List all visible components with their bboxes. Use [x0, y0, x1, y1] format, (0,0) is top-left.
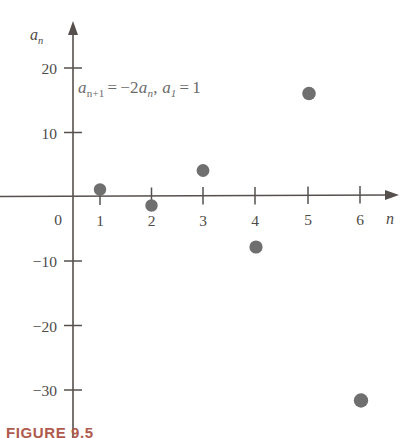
formula-initial-sub: 1	[171, 87, 177, 99]
data-point-n6	[354, 393, 368, 407]
formula-minus: −	[120, 78, 130, 97]
formula-initial-var: a	[162, 78, 171, 97]
data-point-n1	[94, 183, 106, 195]
y-axis-label-sub: n	[38, 35, 43, 46]
scatter-plot: 20 10 0 −10 −20 −30 1 2 3 4 5 6	[0, 0, 414, 438]
y-axis-tick-labels: 20 10 0 −10 −20 −30	[33, 60, 63, 399]
y-tick-label-neg20: −20	[33, 318, 57, 335]
data-point-n3	[197, 164, 210, 177]
x-axis-arrow-icon	[385, 190, 399, 200]
formula-equals-2: =	[177, 78, 193, 97]
formula-lhs-var: a	[78, 78, 87, 97]
y-tick-label-20: 20	[42, 60, 58, 77]
formula-coefficient: 2	[130, 78, 139, 97]
x-tick-label-4: 4	[251, 212, 259, 229]
x-axis	[0, 190, 399, 200]
x-tick-label-2: 2	[148, 212, 156, 229]
recurrence-formula-annotation: an+1=−2an, a1=1	[78, 78, 201, 99]
y-tick-label-neg10: −10	[33, 253, 57, 270]
y-tick-label-0: 0	[54, 211, 62, 228]
y-axis-label-var: a	[30, 26, 38, 43]
x-tick-label-1: 1	[96, 212, 104, 229]
y-tick-label-10: 10	[42, 125, 58, 142]
x-axis-label: n	[386, 210, 394, 227]
x-tick-label-5: 5	[304, 211, 312, 228]
data-points	[94, 87, 368, 408]
y-axis	[68, 21, 78, 438]
x-tick-label-3: 3	[199, 212, 207, 229]
y-axis-label: an	[30, 26, 43, 46]
data-point-n5	[302, 87, 316, 101]
y-tick-label-neg30: −30	[33, 382, 57, 399]
formula-lhs-sub: n+1	[87, 87, 105, 99]
formula-comma: ,	[153, 78, 157, 97]
formula-rhs-var: a	[139, 78, 148, 97]
x-axis-line	[0, 195, 388, 197]
y-axis-arrow-icon	[68, 21, 78, 35]
data-point-n2	[145, 199, 157, 211]
x-axis-tick-labels: 1 2 3 4 5 6	[96, 211, 364, 230]
data-point-n4	[249, 240, 262, 253]
x-tick-label-6: 6	[356, 211, 364, 228]
figure-caption: FIGURE 9.5	[6, 424, 94, 438]
formula-equals: =	[105, 78, 121, 97]
figure-container: 20 10 0 −10 −20 −30 1 2 3 4 5 6	[0, 0, 414, 438]
formula-initial-value: 1	[192, 78, 201, 97]
